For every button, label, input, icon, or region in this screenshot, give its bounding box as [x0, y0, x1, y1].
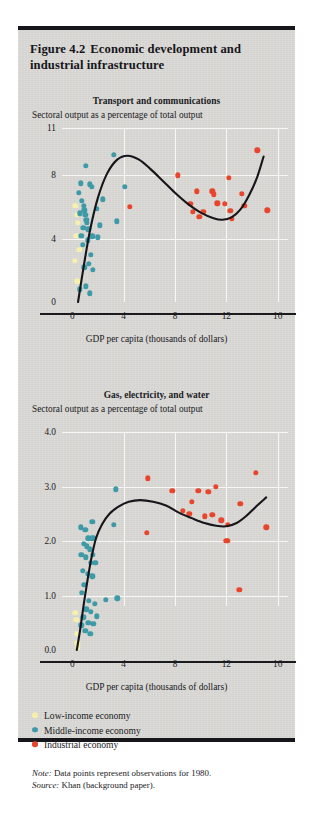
y-tick-label: 8	[51, 170, 56, 180]
legend-label: Middle-income economy	[44, 724, 141, 735]
chart-subtitle-1: Sectoral output as a percentage of total…	[32, 404, 203, 414]
y-tick-label: 0.0	[44, 645, 56, 655]
x-axis-line	[40, 313, 296, 315]
y-tick-label: 4.0	[44, 427, 56, 437]
x-axis-title-0: GDP per capita (thousands of dollars)	[18, 334, 295, 344]
y-tick-label: 4	[51, 234, 56, 244]
figure-page: Figure 4.2Economic development and indus…	[0, 0, 312, 822]
source-line: Source: Khan (background paper).	[32, 780, 284, 792]
y-tick-label: 2.0	[44, 536, 56, 546]
chart-subtitle-0: Sectoral output as a percentage of total…	[32, 110, 203, 120]
plot-area-0: 048110481216	[62, 128, 288, 302]
fitted-trend-curve	[62, 128, 288, 302]
figure-title: Figure 4.2Economic development and indus…	[30, 42, 286, 73]
y-tick-label: 1.0	[44, 591, 56, 601]
legend-marker-icon	[32, 712, 38, 718]
x-axis-line	[40, 661, 296, 663]
y-tick-label: 3.0	[44, 482, 56, 492]
figure-notes: Note: Data points represent observations…	[32, 768, 284, 791]
chart-title-0: Transport and communications	[18, 96, 295, 106]
legend-item: Low-income economy	[32, 708, 282, 723]
figure-number: Figure 4.2	[30, 42, 85, 56]
legend-marker-icon	[32, 741, 38, 747]
legend-item: Middle-income economy	[32, 723, 282, 738]
chart-title-1: Gas, electricity, and water	[18, 390, 295, 400]
legend-label: Low-income economy	[44, 710, 131, 721]
note-text: Data points represent observations for 1…	[52, 768, 211, 778]
x-axis-title-1: GDP per capita (thousands of dollars)	[18, 682, 295, 692]
y-tick-label: 11	[47, 123, 56, 133]
top-rule	[18, 26, 295, 30]
y-tick-label: 0	[51, 297, 56, 307]
source-text: Khan (background paper).	[59, 780, 155, 790]
plot-area-1: 0.01.02.03.04.00481216	[62, 432, 288, 650]
legend-label: Industrial economy	[44, 739, 118, 750]
note-label: Note:	[32, 768, 52, 778]
legend-item: Industrial economy	[32, 737, 282, 752]
source-label: Source:	[32, 780, 59, 790]
fitted-trend-curve	[62, 432, 288, 650]
legend: Low-income economyMiddle-income economyI…	[32, 708, 282, 752]
legend-marker-icon	[32, 727, 38, 733]
note-line: Note: Data points represent observations…	[32, 768, 284, 780]
